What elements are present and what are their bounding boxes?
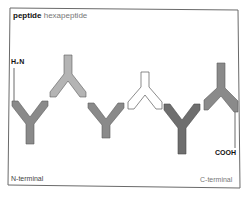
title-bold: peptide <box>13 11 41 20</box>
diagram-title: peptide hexapeptide <box>13 11 87 20</box>
residue-4-y-shape <box>128 72 162 109</box>
residue-6-y-shape <box>204 63 238 112</box>
c-group-label: COOH <box>215 149 236 156</box>
frame-border <box>8 8 240 188</box>
c-terminal-label: C-terminal <box>200 176 232 183</box>
n-terminal-label: N-terminal <box>11 175 43 182</box>
n-group-label: H₂N <box>11 58 24 65</box>
residue-2-y-shape <box>50 55 86 97</box>
peptide-diagram <box>0 0 251 200</box>
title-subtitle: hexapeptide <box>44 11 88 20</box>
residue-5-y-shape <box>164 104 200 154</box>
residue-3-y-shape <box>88 103 124 138</box>
residue-1-y-shape <box>12 101 48 144</box>
